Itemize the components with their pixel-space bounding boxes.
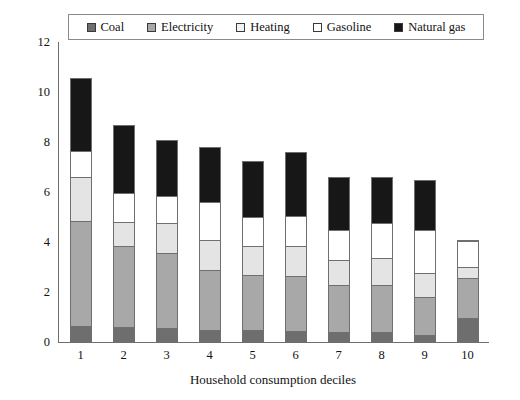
bar-segment[interactable] <box>156 223 178 253</box>
bars-container: 12345678910 <box>59 42 489 342</box>
x-axis-label: Household consumption deciles <box>58 372 488 388</box>
bar-segment[interactable] <box>199 330 221 343</box>
x-axis-tick-label: 6 <box>292 348 298 363</box>
bar-segment[interactable] <box>328 285 350 333</box>
bar-slot: 9 <box>403 42 446 342</box>
bar-segment[interactable] <box>414 335 436 343</box>
legend-label: Gasoline <box>327 21 371 34</box>
y-axis-tick-label: 8 <box>44 135 50 150</box>
bar-segment[interactable] <box>199 240 221 270</box>
bar-segment[interactable] <box>328 332 350 342</box>
bar-segment[interactable] <box>113 246 135 327</box>
bar-segment[interactable] <box>113 125 135 194</box>
bar-segment[interactable] <box>156 140 178 196</box>
bar-slot: 7 <box>317 42 360 342</box>
bar-segment[interactable] <box>285 216 307 246</box>
bar-segment[interactable] <box>285 331 307 342</box>
bar-segment[interactable] <box>70 151 92 177</box>
bar-segment[interactable] <box>457 278 479 318</box>
bar-slot: 1 <box>59 42 102 342</box>
stacked-bar[interactable] <box>199 147 221 342</box>
legend-entry[interactable]: Coal <box>87 21 125 34</box>
bar-segment[interactable] <box>70 78 92 151</box>
bar-segment[interactable] <box>156 328 178 342</box>
stacked-bar[interactable] <box>242 161 264 342</box>
legend-entry[interactable]: Heating <box>236 21 290 34</box>
bar-segment[interactable] <box>328 260 350 285</box>
bar-slot: 6 <box>274 42 317 342</box>
legend-label: Coal <box>101 21 125 34</box>
bar-segment[interactable] <box>156 253 178 328</box>
bar-segment[interactable] <box>199 270 221 330</box>
bar-segment[interactable] <box>371 223 393 258</box>
stacked-bar[interactable] <box>70 78 92 342</box>
bar-slot: 10 <box>446 42 489 342</box>
bar-segment[interactable] <box>199 202 221 240</box>
x-axis-tick-label: 10 <box>461 348 474 363</box>
bar-segment[interactable] <box>371 258 393 284</box>
x-axis-tick-label: 3 <box>163 348 169 363</box>
bar-segment[interactable] <box>70 326 92 342</box>
bar-segment[interactable] <box>113 327 135 342</box>
bar-segment[interactable] <box>457 267 479 278</box>
bar-slot: 2 <box>102 42 145 342</box>
x-axis-tick-label: 9 <box>421 348 427 363</box>
bar-segment[interactable] <box>113 222 135 246</box>
bar-slot: 5 <box>231 42 274 342</box>
bar-segment[interactable] <box>457 241 479 267</box>
legend-entry[interactable]: Electricity <box>147 21 213 34</box>
bar-segment[interactable] <box>156 196 178 224</box>
y-axis-tick-label: 2 <box>44 285 50 300</box>
bar-segment[interactable] <box>285 152 307 216</box>
legend-label: Heating <box>250 21 290 34</box>
bar-slot: 8 <box>360 42 403 342</box>
bar-segment[interactable] <box>285 276 307 331</box>
legend-swatch-icon <box>87 23 96 32</box>
bar-segment[interactable] <box>113 193 135 222</box>
legend-swatch-icon <box>147 23 156 32</box>
y-axis-tick-label: 4 <box>44 235 50 250</box>
bar-segment[interactable] <box>199 147 221 202</box>
bar-segment[interactable] <box>457 318 479 342</box>
bar-segment[interactable] <box>242 217 264 246</box>
chart-figure: CoalElectricityHeatingGasolineNatural ga… <box>0 0 520 400</box>
y-axis-tick-label: 0 <box>44 335 50 350</box>
legend-label: Natural gas <box>408 21 465 34</box>
bar-segment[interactable] <box>414 180 436 230</box>
legend-entry[interactable]: Natural gas <box>394 21 465 34</box>
stacked-bar[interactable] <box>113 125 135 343</box>
bar-segment[interactable] <box>371 332 393 342</box>
bar-segment[interactable] <box>371 177 393 223</box>
bar-segment[interactable] <box>242 161 264 217</box>
y-axis-tick-label: 6 <box>44 185 50 200</box>
bar-slot: 3 <box>145 42 188 342</box>
stacked-bar[interactable] <box>156 140 178 343</box>
bar-slot: 4 <box>188 42 231 342</box>
bar-segment[interactable] <box>371 285 393 333</box>
bar-segment[interactable] <box>70 177 92 221</box>
bar-segment[interactable] <box>242 275 264 330</box>
x-axis-tick-label: 5 <box>249 348 255 363</box>
bar-segment[interactable] <box>328 230 350 260</box>
legend-entry[interactable]: Gasoline <box>313 21 371 34</box>
bar-segment[interactable] <box>242 330 264 343</box>
bar-segment[interactable] <box>285 246 307 276</box>
y-axis-tick-label: 12 <box>38 35 51 50</box>
legend-swatch-icon <box>313 23 322 32</box>
stacked-bar[interactable] <box>414 180 436 343</box>
x-axis-tick-label: 1 <box>77 348 83 363</box>
stacked-bar[interactable] <box>328 177 350 342</box>
stacked-bar[interactable] <box>371 177 393 342</box>
bar-segment[interactable] <box>414 273 436 297</box>
bar-segment[interactable] <box>414 230 436 274</box>
x-axis-tick-label: 2 <box>120 348 126 363</box>
stacked-bar[interactable] <box>457 240 479 343</box>
plot-area: 12345678910 024681012 <box>58 42 489 343</box>
legend-label: Electricity <box>161 21 213 34</box>
bar-segment[interactable] <box>242 246 264 275</box>
stacked-bar[interactable] <box>285 152 307 342</box>
bar-segment[interactable] <box>70 221 92 326</box>
bar-segment[interactable] <box>328 177 350 230</box>
x-axis-tick-label: 7 <box>335 348 341 363</box>
bar-segment[interactable] <box>414 297 436 335</box>
